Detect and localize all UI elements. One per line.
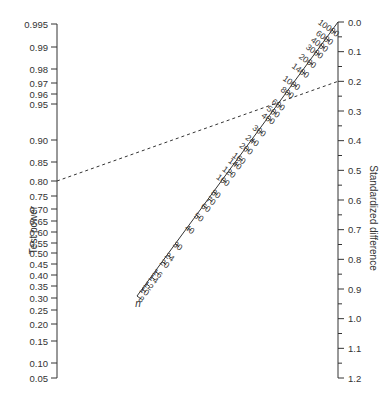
right-tick-label: 1.1 — [348, 343, 361, 354]
right-tick-label: 1.0 — [348, 313, 361, 324]
left-tick-label: 0.99 — [30, 42, 49, 53]
n-tick-label: 40 — [183, 223, 197, 237]
test-power-axis-title: Test power — [28, 205, 39, 254]
left-tick-label: 0.15 — [30, 336, 49, 347]
n-tick-label: 50 — [192, 210, 206, 224]
test-power-axis: 0.9950.990.980.970.960.950.900.850.800.7… — [24, 19, 57, 384]
left-tick-label: 0.97 — [30, 78, 49, 89]
right-tick-label: 0.5 — [348, 165, 361, 176]
right-tick-label: 0.7 — [348, 224, 361, 235]
left-tick-label: 0.35 — [30, 281, 49, 292]
n-tick-label: 30 — [171, 239, 185, 253]
right-tick-label: 1.2 — [348, 373, 361, 384]
standardized-difference-axis: 0.00.10.20.30.40.50.60.70.80.91.01.11.2 — [338, 17, 361, 384]
left-tick-label: 0.80 — [30, 176, 49, 187]
right-tick-label: 0.0 — [348, 17, 361, 28]
left-tick-label: 0.85 — [30, 157, 49, 168]
left-tick-label: 0.05 — [30, 373, 49, 384]
right-tick-label: 0.1 — [348, 46, 361, 57]
left-tick-label: 0.30 — [30, 293, 49, 304]
right-tick-label: 0.6 — [348, 195, 361, 206]
left-tick-label: 0.40 — [30, 270, 49, 281]
right-tick-label: 0.2 — [348, 76, 361, 87]
example-dashed-line — [57, 81, 338, 181]
right-tick-label: 0.4 — [348, 135, 361, 146]
sample-size-axis-title: n — [135, 298, 141, 309]
right-tick-label: 0.3 — [348, 106, 361, 117]
left-tick-label: 0.25 — [30, 305, 49, 316]
right-tick-label: 0.9 — [348, 284, 361, 295]
nomogram-chart: 0.9950.990.980.970.960.950.900.850.800.7… — [0, 0, 390, 398]
left-tick-label: 0.98 — [30, 64, 49, 75]
right-tick-label: 0.8 — [348, 254, 361, 265]
sample-size-axis: 1000060004000300020001400100080060050040… — [137, 17, 342, 305]
left-tick-label: 0.995 — [24, 19, 48, 30]
standardized-difference-axis-title: Standardized difference — [368, 165, 379, 271]
left-tick-label: 0.10 — [30, 358, 49, 369]
left-tick-label: 0.20 — [30, 319, 49, 330]
left-tick-label: 0.75 — [30, 191, 49, 202]
left-tick-label: 0.95 — [30, 99, 49, 110]
left-tick-label: 0.90 — [30, 135, 49, 146]
left-tick-label: 0.45 — [30, 259, 49, 270]
